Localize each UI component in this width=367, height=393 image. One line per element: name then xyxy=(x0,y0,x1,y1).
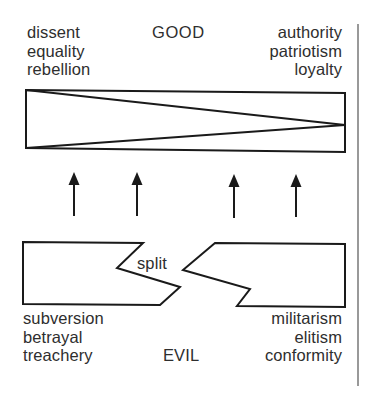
good-heading: GOOD xyxy=(152,23,205,42)
term-betrayal: betrayal xyxy=(23,328,104,347)
arrow-up-icon-2 xyxy=(132,172,143,216)
split-label: split xyxy=(137,254,167,273)
arrow-up-icon-1 xyxy=(69,172,80,216)
arrow-up-icon-4 xyxy=(291,174,302,217)
diagram-canvas: dissent equality rebellion GOOD authorit… xyxy=(0,0,367,393)
term-rebellion: rebellion xyxy=(27,60,90,79)
term-subversion: subversion xyxy=(23,309,104,328)
wedge-line-upper xyxy=(26,90,345,125)
evil-split-shape-right xyxy=(183,243,345,307)
arrow-up-icon-3 xyxy=(229,174,240,218)
good-right-terms: authority patriotism loyalty xyxy=(269,23,342,79)
evil-heading: EVIL xyxy=(163,346,199,365)
term-authority: authority xyxy=(269,23,342,42)
evil-split-shape-left xyxy=(23,242,180,305)
term-militarism: militarism xyxy=(265,309,342,328)
good-spectrum-box xyxy=(26,90,345,152)
evil-right-terms: militarism elitism conformity xyxy=(265,309,342,365)
evil-left-terms: subversion betrayal treachery xyxy=(23,309,104,365)
term-equality: equality xyxy=(27,42,90,61)
term-treachery: treachery xyxy=(23,346,104,365)
term-conformity: conformity xyxy=(265,346,342,365)
wedge-line-lower xyxy=(26,125,345,148)
good-left-terms: dissent equality rebellion xyxy=(27,23,90,79)
term-elitism: elitism xyxy=(265,328,342,347)
term-loyalty: loyalty xyxy=(269,60,342,79)
term-dissent: dissent xyxy=(27,23,90,42)
term-patriotism: patriotism xyxy=(269,42,342,61)
